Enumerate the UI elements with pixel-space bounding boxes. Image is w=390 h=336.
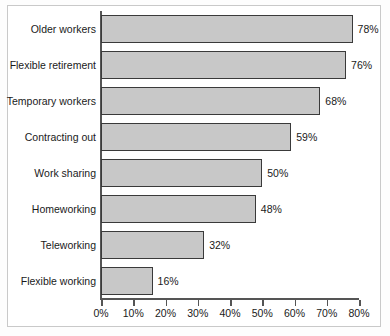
bar — [101, 231, 204, 259]
x-axis-tick — [133, 300, 135, 306]
bar-track: 50% — [101, 155, 359, 191]
bar-row: Older workers78% — [0, 11, 390, 47]
bar-category-label: Contracting out — [0, 119, 96, 155]
bar-value-label: 76% — [346, 51, 372, 79]
bar-value-label: 68% — [320, 87, 346, 115]
bar-category-label: Homeworking — [0, 191, 96, 227]
x-axis-tick — [295, 300, 297, 306]
x-axis-tick — [327, 300, 329, 306]
bar — [101, 267, 153, 295]
bar-value-label: 48% — [256, 195, 282, 223]
bar-value-label: 50% — [262, 159, 288, 187]
bar-category-label: Work sharing — [0, 155, 96, 191]
bar — [101, 51, 346, 79]
bar-track: 68% — [101, 83, 359, 119]
bar-chart-figure: Older workers78%Flexible retirement76%Te… — [0, 0, 390, 336]
x-axis-tick — [101, 300, 103, 306]
bar-category-label: Temporary workers — [0, 83, 96, 119]
bar-row: Homeworking48% — [0, 191, 390, 227]
bar-track: 48% — [101, 191, 359, 227]
bar-row: Teleworking32% — [0, 227, 390, 263]
bar — [101, 15, 353, 43]
bar-value-label: 16% — [153, 267, 179, 295]
bar — [101, 123, 291, 151]
x-axis-tick-label: 80% — [339, 307, 379, 319]
x-axis-tick — [359, 300, 361, 306]
bar-track: 78% — [101, 11, 359, 47]
bar-category-label: Teleworking — [0, 227, 96, 263]
bar-value-label: 59% — [291, 123, 317, 151]
bar-value-label: 32% — [204, 231, 230, 259]
bar-track: 76% — [101, 47, 359, 83]
bar-row: Flexible working16% — [0, 263, 390, 299]
bar-category-label: Flexible working — [0, 263, 96, 299]
x-axis-tick — [230, 300, 232, 306]
bar-track: 59% — [101, 119, 359, 155]
bar-track: 16% — [101, 263, 359, 299]
bar — [101, 87, 320, 115]
bar-category-label: Older workers — [0, 11, 96, 47]
x-axis-tick — [166, 300, 168, 306]
x-axis-tick — [198, 300, 200, 306]
bar-category-label: Flexible retirement — [0, 47, 96, 83]
bar-value-label: 78% — [353, 15, 379, 43]
bar-track: 32% — [101, 227, 359, 263]
bar — [101, 195, 256, 223]
bar — [101, 159, 262, 187]
bar-row: Flexible retirement76% — [0, 47, 390, 83]
bar-row: Temporary workers68% — [0, 83, 390, 119]
bar-row: Contracting out59% — [0, 119, 390, 155]
bar-row: Work sharing50% — [0, 155, 390, 191]
x-axis-tick — [262, 300, 264, 306]
